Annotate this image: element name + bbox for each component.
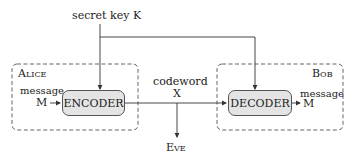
alice-message-symbol: M xyxy=(36,97,47,108)
decoder-block: DECODER xyxy=(228,90,292,116)
encoder-label: ENCODER xyxy=(63,97,123,110)
eve-label: Eve xyxy=(166,142,186,153)
alice-label: Alice xyxy=(18,68,46,79)
codeword-symbol: X xyxy=(173,88,181,99)
bob-label: Bob xyxy=(312,68,333,79)
secret-key-label: secret key K xyxy=(72,10,141,21)
encoder-block: ENCODER xyxy=(62,90,125,116)
alice-message-label: message xyxy=(20,86,64,96)
bob-message-symbol: M xyxy=(303,98,314,109)
decoder-label: DECODER xyxy=(230,97,289,110)
codeword-label: codeword xyxy=(153,76,208,87)
